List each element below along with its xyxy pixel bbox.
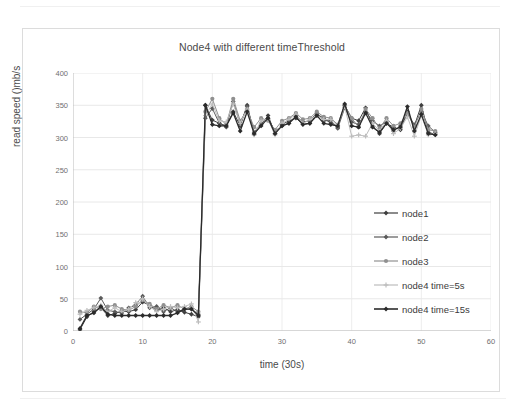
legend-marker-icon <box>373 207 399 219</box>
x-tick-label: 0 <box>71 337 75 346</box>
legend-label: node3 <box>402 256 428 267</box>
legend-item-1[interactable]: node1 <box>373 201 499 225</box>
y-tick-label: 0 <box>64 327 68 336</box>
x-tick-label: 50 <box>417 337 425 346</box>
legend-marker-icon <box>373 231 399 243</box>
y-tick-label: 400 <box>55 69 68 78</box>
chart-title: Node4 with different timeThreshold <box>23 41 501 53</box>
y-tick-label: 50 <box>60 294 68 303</box>
legend-item-3[interactable]: node3 <box>373 249 499 273</box>
legend-label: node4 time=15s <box>402 304 470 315</box>
chart-legend: node1node2node3node4 time=5snode4 time=1… <box>373 201 499 321</box>
y-tick-label: 250 <box>55 165 68 174</box>
legend-label: node4 time=5s <box>402 280 465 291</box>
scan-artifact-top <box>20 6 500 7</box>
legend-item-5[interactable]: node4 time=15s <box>373 297 499 321</box>
y-tick-label: 150 <box>55 230 68 239</box>
chart-figure: Node4 with different timeThreshold read … <box>0 0 528 416</box>
legend-item-4[interactable]: node4 time=5s <box>373 273 499 297</box>
legend-label: node2 <box>402 232 428 243</box>
legend-item-2[interactable]: node2 <box>373 225 499 249</box>
y-tick-label: 350 <box>55 101 68 110</box>
legend-marker-icon <box>373 255 399 267</box>
y-tick-label: 300 <box>55 133 68 142</box>
legend-marker-icon <box>373 303 399 315</box>
x-tick-label: 30 <box>278 337 286 346</box>
legend-label: node1 <box>402 208 428 219</box>
legend-marker-icon <box>373 279 399 291</box>
x-tick-label: 40 <box>347 337 355 346</box>
x-tick-label: 10 <box>138 337 146 346</box>
x-axis-label: time (30s) <box>73 359 491 370</box>
x-tick-label: 60 <box>487 337 495 346</box>
chart-frame: Node4 with different timeThreshold read … <box>22 28 500 392</box>
y-tick-label: 100 <box>55 262 68 271</box>
x-tick-label: 20 <box>208 337 216 346</box>
y-tick-label: 200 <box>55 198 68 207</box>
scan-artifact-bottom <box>20 398 506 399</box>
y-axis-label: read speed ()mb/s <box>11 66 22 147</box>
